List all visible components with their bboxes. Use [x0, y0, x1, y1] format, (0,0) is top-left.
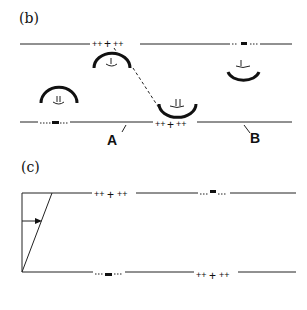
marker-a: A — [107, 132, 117, 148]
transition-path-dashed — [114, 48, 159, 108]
svg-text:+: + — [104, 37, 111, 51]
marker-a-pointer — [122, 125, 126, 132]
panel-b-bottom-positive-charges: ++ + ++ — [153, 117, 197, 132]
svg-text:+: + — [107, 188, 114, 202]
svg-text:++: ++ — [117, 189, 128, 199]
svg-text:++: ++ — [176, 119, 187, 129]
svg-text:++: ++ — [113, 39, 124, 49]
panel-c-top-negative-charges — [198, 189, 230, 197]
panel-b-label: (b) — [19, 10, 39, 26]
diagram-canvas: (b) ++ + ++ ++ + ++ — [0, 0, 307, 310]
panel-c-bottom-positive-charges: ++ + ++ — [194, 267, 238, 283]
marker-b: B — [250, 130, 260, 146]
vortex-top-middle — [94, 53, 130, 68]
svg-text:++: ++ — [155, 119, 166, 129]
panel-c-label: (c) — [21, 159, 40, 175]
panel-b-bottom-negative-charges — [38, 118, 70, 126]
svg-text:+: + — [167, 118, 174, 132]
panel-c-top-positive-charges: ++ + ++ — [92, 188, 136, 202]
shear-velocity-profile — [22, 193, 52, 272]
vortex-right — [228, 60, 259, 80]
svg-text:++: ++ — [219, 270, 230, 280]
vortex-left — [41, 87, 77, 104]
svg-text:++: ++ — [92, 39, 103, 49]
svg-text:++: ++ — [196, 270, 207, 280]
svg-text:+: + — [209, 269, 216, 283]
panel-b-top-negative-charges — [230, 40, 260, 48]
panel-c-bottom-negative-charges — [93, 268, 125, 276]
svg-text:++: ++ — [94, 189, 105, 199]
vortex-bottom-middle — [159, 99, 196, 117]
